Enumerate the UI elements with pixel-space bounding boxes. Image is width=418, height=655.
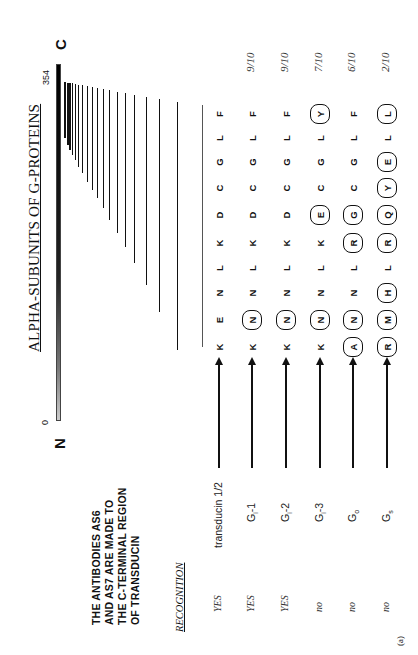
- protein-label-suffix: -2: [279, 503, 291, 512]
- recognition-result: YES: [246, 595, 256, 612]
- residue: E: [209, 310, 229, 330]
- residue-circled: N: [276, 310, 296, 330]
- residue: L: [242, 128, 262, 148]
- residue-circled: A: [343, 337, 363, 357]
- panel-label: (a): [396, 636, 405, 646]
- residue: K: [276, 337, 296, 357]
- residue-circled: E: [377, 152, 397, 172]
- n-terminal-label: N: [52, 438, 67, 449]
- protein-label-suffix: -1: [245, 503, 257, 512]
- protein-label: Gi-1: [246, 503, 259, 522]
- residue: K: [209, 233, 229, 253]
- residue: G: [276, 152, 296, 172]
- fragment-line: [75, 84, 76, 160]
- residue-circled: N: [343, 310, 363, 330]
- residue: D: [276, 205, 296, 225]
- residue: D: [242, 205, 262, 225]
- residue: D: [209, 205, 229, 225]
- residue-circled: R: [343, 233, 363, 253]
- protein-label: Go: [347, 510, 360, 522]
- arrow-up-icon: [251, 364, 252, 468]
- protein-label: Gs: [381, 510, 394, 522]
- residue: N: [310, 283, 330, 303]
- residue: F: [242, 104, 262, 124]
- residue-circled: G: [343, 205, 363, 225]
- fragment-line: [146, 97, 147, 285]
- recognition-header: RECOGNITION: [175, 563, 186, 632]
- residue: K: [276, 233, 296, 253]
- separator-line: [202, 105, 203, 347]
- match-fraction: 9/10: [245, 52, 256, 72]
- protein-label-base: G: [245, 514, 257, 522]
- c-terminal-label: C: [53, 39, 68, 50]
- protein-label-suffix: -3: [313, 503, 325, 512]
- fragment-line: [103, 89, 104, 208]
- fragment-line: [97, 88, 98, 198]
- match-fraction: 9/10: [279, 52, 290, 72]
- residue: C: [276, 178, 296, 198]
- residue: F: [209, 104, 229, 124]
- fragment-line: [125, 93, 126, 247]
- recognition-result: no: [381, 602, 391, 612]
- residue-circled: N: [242, 310, 262, 330]
- fragment-line: [87, 86, 88, 182]
- fragment-line: [69, 83, 71, 150]
- residue: G: [310, 152, 330, 172]
- residue-circled: R: [377, 233, 397, 253]
- residue-circled: Y: [310, 104, 330, 124]
- recognition-result: no: [314, 602, 324, 612]
- match-fraction: 7/10: [313, 52, 324, 72]
- residue: C: [310, 178, 330, 198]
- scale-start-label: 0: [41, 420, 50, 425]
- residue: L: [242, 258, 262, 278]
- residue: G: [242, 152, 262, 172]
- residue: N: [242, 283, 262, 303]
- scale-end-label: 354: [42, 70, 51, 85]
- protein-label-subscript: s: [387, 510, 394, 514]
- residue: G: [343, 152, 363, 172]
- figure-title: ALPHA-SUBUNITS OF G-PROTEINS: [27, 104, 42, 352]
- fragment-line: [82, 85, 83, 173]
- fragment-line: [109, 90, 110, 220]
- figure-canvas: ALPHA-SUBUNITS OF G-PROTEINS N C 0 354 T…: [0, 0, 418, 655]
- fragment-line: [159, 99, 160, 312]
- fragment-line: [72, 83, 73, 155]
- protein-label-base: G: [313, 514, 325, 522]
- residue-circled: M: [377, 310, 397, 330]
- residue: C: [343, 178, 363, 198]
- residue: L: [310, 258, 330, 278]
- protein-label: Gi-2: [280, 503, 293, 522]
- arrow-up-icon: [352, 364, 353, 468]
- protein-label: transducin 1/2: [213, 482, 224, 548]
- residue: C: [242, 178, 262, 198]
- protein-label-base: G: [346, 514, 358, 522]
- protein-label-subscript: i: [252, 512, 259, 514]
- residue-circled: L: [377, 104, 397, 124]
- residue-circled: R: [377, 337, 397, 357]
- residue: F: [276, 104, 296, 124]
- match-fraction: 6/10: [346, 52, 357, 72]
- residue-circled: N: [310, 310, 330, 330]
- residue: K: [310, 337, 330, 357]
- protein-label-base: G: [279, 514, 291, 522]
- residue: L: [276, 258, 296, 278]
- arrow-up-icon: [285, 364, 286, 468]
- residue: K: [242, 337, 262, 357]
- arrow-up-icon: [386, 364, 387, 468]
- residue: L: [209, 258, 229, 278]
- match-fraction: 2/10: [380, 52, 391, 72]
- residue: C: [209, 178, 229, 198]
- protein-label: Gi-3: [314, 503, 327, 522]
- fragment-line: [64, 82, 66, 138]
- residue: K: [310, 233, 330, 253]
- residue: N: [343, 283, 363, 303]
- protein-label-subscript: i: [286, 512, 293, 514]
- residue: F: [343, 104, 363, 124]
- residue: K: [209, 337, 229, 357]
- protein-label-subscript: i: [320, 512, 327, 514]
- residue: L: [343, 128, 363, 148]
- note-line: THE C-TERMINAL REGION: [117, 487, 128, 625]
- residue-circled: Q: [377, 205, 397, 225]
- protein-backbone-bar: [56, 64, 61, 421]
- residue: N: [276, 283, 296, 303]
